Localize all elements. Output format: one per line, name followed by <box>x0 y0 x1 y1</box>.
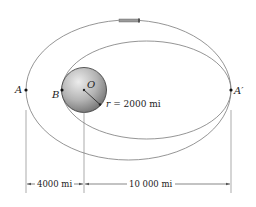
label-B: B <box>51 89 59 100</box>
radius-end-dot <box>99 103 101 105</box>
point-O-dot <box>83 89 85 91</box>
point-B-dot <box>60 88 63 91</box>
point-A-dot <box>24 88 27 91</box>
label-A-prime: A′ <box>233 85 244 96</box>
dimension-left-label: 4000 mi <box>37 179 72 189</box>
dimension-right-label: 10 000 mi <box>129 179 173 189</box>
point-A-prime-dot <box>229 88 232 91</box>
label-O: O <box>87 79 95 90</box>
label-A: A <box>14 84 22 95</box>
rocket-icon <box>119 19 140 23</box>
orbit-diagram: A B O A′ r = 2000 mi 4000 mi 10 000 mi <box>0 0 256 207</box>
radius-label: r = 2000 mi <box>106 99 161 109</box>
radius-value: = 2000 mi <box>110 99 161 109</box>
